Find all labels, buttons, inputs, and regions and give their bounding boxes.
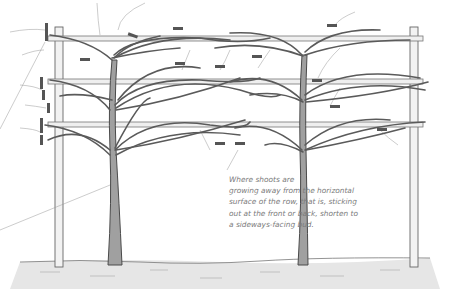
left-tree xyxy=(108,60,122,265)
right-tree xyxy=(298,55,308,265)
trellis-illustration xyxy=(0,0,453,289)
ground xyxy=(10,258,440,289)
annotation-line: growing away from the horizontal xyxy=(229,185,364,196)
pruning-annotation: Where shoots are growing away from the h… xyxy=(229,174,364,230)
tier-branches xyxy=(45,30,428,155)
annotation-line: surface of the row, that is, sticking xyxy=(229,196,364,207)
annotation-line: Where shoots are xyxy=(229,174,364,185)
annotation-line: out at the front or back, shorten to xyxy=(229,208,364,219)
annotation-line: a sideways-facing bud. xyxy=(229,219,364,230)
